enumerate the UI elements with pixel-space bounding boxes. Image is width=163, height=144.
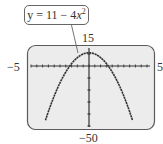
ymax-label: 15 [82,32,94,44]
callout-exp: 2 [82,7,86,16]
equation-callout: y = 11 − 4x2 [24,5,89,25]
ymin-label: −50 [79,132,98,144]
xmin-label: −5 [7,61,20,73]
callout-text: y = 11 − 4 [27,8,76,22]
xmax-label: 5 [157,61,163,73]
